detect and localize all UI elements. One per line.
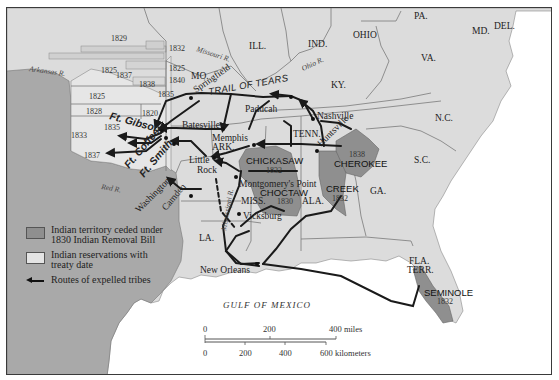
svg-text:1820: 1820 <box>142 109 158 118</box>
svg-text:Rock: Rock <box>197 165 217 175</box>
map-frame: 1829 1832 1825 1837 1825 1840 1838 1835 … <box>6 7 552 375</box>
legend-item-ceded: Indian territory ceded under 1830 Indian… <box>26 225 176 245</box>
gulf-of-mexico-label: GULF OF MEXICO <box>223 300 311 310</box>
reservation-1825-strip <box>49 53 164 59</box>
svg-text:ILL.: ILL. <box>249 41 266 51</box>
arrow-left-icon <box>26 278 45 283</box>
svg-text:1837: 1837 <box>116 71 132 80</box>
svg-text:N.C.: N.C. <box>435 113 453 123</box>
svg-text:1833: 1833 <box>71 131 87 140</box>
legend-label: Indian reservations with treaty date <box>51 250 148 270</box>
svg-text:LA.: LA. <box>199 233 214 243</box>
svg-text:1835: 1835 <box>104 123 120 132</box>
svg-text:DEL.: DEL. <box>494 21 515 31</box>
svg-text:Batesville: Batesville <box>182 120 220 130</box>
svg-text:Memphis: Memphis <box>212 133 248 143</box>
svg-text:ARK.: ARK. <box>212 142 234 152</box>
svg-text:1832: 1832 <box>332 194 348 203</box>
svg-text:CHICKASAW: CHICKASAW <box>246 155 303 166</box>
svg-text:GA.: GA. <box>370 186 386 196</box>
map-canvas: 1829 1832 1825 1837 1825 1840 1838 1835 … <box>7 8 552 375</box>
reservation-swatch <box>26 252 45 264</box>
svg-text:200: 200 <box>239 348 252 358</box>
svg-text:New Orleans: New Orleans <box>200 265 250 275</box>
svg-text:1828: 1828 <box>86 107 102 116</box>
svg-text:1835: 1835 <box>158 90 174 99</box>
svg-text:1825: 1825 <box>101 66 117 75</box>
svg-text:200: 200 <box>263 324 276 334</box>
svg-text:1838: 1838 <box>139 80 155 89</box>
map-legend: Indian territory ceded under 1830 Indian… <box>26 225 176 290</box>
legend-label: Indian territory ceded under 1830 Indian… <box>51 225 163 245</box>
reservation-1837 <box>126 61 166 69</box>
svg-text:CREEK: CREEK <box>326 183 359 194</box>
legend-label: Routes of expelled tribes <box>51 275 151 285</box>
svg-text:1837: 1837 <box>84 151 100 160</box>
svg-text:VA.: VA. <box>421 53 436 63</box>
svg-text:1832: 1832 <box>169 44 185 53</box>
svg-text:TERR.: TERR. <box>407 265 434 275</box>
svg-text:S.C.: S.C. <box>414 155 430 165</box>
legend-item-routes: Routes of expelled tribes <box>26 275 176 285</box>
svg-text:Little: Little <box>189 155 210 165</box>
svg-text:1825: 1825 <box>89 92 105 101</box>
svg-text:TENN.: TENN. <box>293 129 321 139</box>
svg-text:Vicksburg: Vicksburg <box>243 211 282 221</box>
ceded-territory-swatch <box>26 227 45 239</box>
svg-text:PA.: PA. <box>414 11 428 21</box>
svg-text:1832: 1832 <box>266 166 282 175</box>
svg-text:0: 0 <box>203 324 207 334</box>
svg-text:KY.: KY. <box>331 80 346 90</box>
scale-bar: 0 200 400 miles 0 200 400 600 kilometers <box>203 324 371 358</box>
svg-text:1825: 1825 <box>169 64 185 73</box>
svg-text:OHIO: OHIO <box>353 30 377 40</box>
svg-text:600 kilometers: 600 kilometers <box>320 348 371 358</box>
svg-text:1840: 1840 <box>169 76 185 85</box>
svg-text:1832: 1832 <box>437 297 453 306</box>
svg-text:1830: 1830 <box>277 197 293 206</box>
svg-text:IND.: IND. <box>308 39 327 49</box>
svg-text:MD.: MD. <box>472 26 490 36</box>
svg-text:1829: 1829 <box>111 34 127 43</box>
svg-text:1838: 1838 <box>349 150 365 159</box>
svg-text:0: 0 <box>203 348 207 358</box>
svg-text:CHEROKEE: CHEROKEE <box>334 158 387 169</box>
legend-item-reservation: Indian reservations with treaty date <box>26 250 176 270</box>
reservation-1832 <box>146 41 164 49</box>
svg-text:400: 400 <box>279 348 292 358</box>
svg-text:Paducah: Paducah <box>245 104 277 114</box>
svg-text:400 miles: 400 miles <box>329 324 362 334</box>
